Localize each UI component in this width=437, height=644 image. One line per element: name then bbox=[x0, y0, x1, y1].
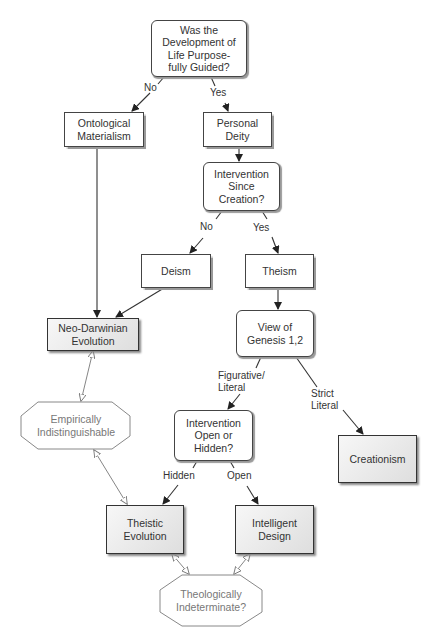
node-label: Theism bbox=[262, 265, 296, 278]
node-personal-deity: Personal Deity bbox=[203, 112, 272, 147]
decision-life-guided: Was the Development of Life Purpose- ful… bbox=[151, 20, 247, 77]
node-theism: Theism bbox=[245, 254, 314, 288]
node-theologically-indeterminate: Theologically Indeterminate? bbox=[160, 575, 262, 626]
node-theistic-evolution: Theistic Evolution bbox=[106, 505, 184, 554]
edge-label-no: No bbox=[200, 221, 213, 233]
edge-guided-no bbox=[158, 77, 164, 84]
node-ontological-materialism: Ontological Materialism bbox=[64, 112, 144, 147]
node-intelligent-design: Intelligent Design bbox=[235, 505, 314, 554]
node-neo-darwinian-evolution: Neo-Darwinian Evolution bbox=[47, 318, 139, 351]
node-label: Neo-Darwinian Evolution bbox=[58, 322, 127, 347]
node-label: Theologically Indeterminate? bbox=[176, 588, 246, 613]
edge-label-strict-literal: Strict Literal bbox=[311, 388, 338, 412]
edge-label-yes: Yes bbox=[210, 87, 226, 99]
decision-intervention-since-creation: Intervention Since Creation? bbox=[203, 162, 280, 211]
edge-label-open: Open bbox=[227, 470, 251, 482]
node-label: Empirically Indistinguishable bbox=[37, 413, 115, 438]
edge-label-hidden: Hidden bbox=[163, 470, 195, 482]
node-creationism: Creationism bbox=[338, 435, 417, 483]
node-empirically-indistinguishable: Empirically Indistinguishable bbox=[21, 402, 131, 449]
node-deism: Deism bbox=[141, 254, 211, 288]
edge-label-no: No bbox=[144, 82, 157, 94]
node-label: Personal Deity bbox=[217, 117, 258, 142]
node-label: Intelligent Design bbox=[252, 517, 297, 542]
edge-label-figurative-literal: Figurative/ Literal bbox=[218, 370, 265, 394]
edge-theistic-theological bbox=[172, 554, 189, 574]
node-label: Intervention Since Creation? bbox=[214, 168, 269, 206]
node-label: Intervention Open or Hidden? bbox=[186, 417, 241, 455]
node-label: Was the Development of Life Purpose- ful… bbox=[162, 24, 236, 74]
decision-view-of-genesis: View of Genesis 1,2 bbox=[236, 310, 314, 357]
decision-intervention-open-hidden: Intervention Open or Hidden? bbox=[174, 410, 253, 461]
node-label: Deism bbox=[161, 265, 191, 278]
node-label: Creationism bbox=[349, 453, 405, 466]
edge-guided-yes bbox=[211, 77, 215, 86]
node-label: Ontological Materialism bbox=[77, 117, 131, 142]
edge-design-theological bbox=[234, 554, 250, 574]
edge-label-yes: Yes bbox=[253, 222, 269, 234]
edge-neo-empirical bbox=[81, 351, 93, 401]
node-label: Theistic Evolution bbox=[123, 517, 166, 542]
node-label: View of Genesis 1,2 bbox=[247, 321, 303, 346]
edge-empirical-theistic bbox=[94, 450, 127, 504]
